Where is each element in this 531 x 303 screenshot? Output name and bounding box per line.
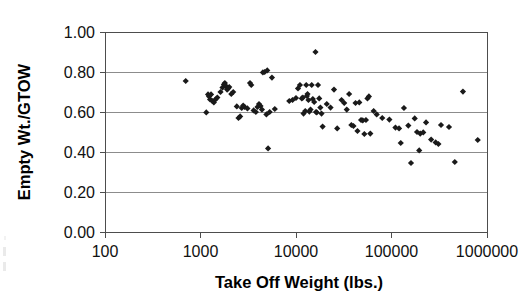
scatter-chart: 0.000.200.400.600.801.00 100100010000100… [0, 0, 531, 303]
data-point [452, 159, 458, 165]
x-axis-title: Take Off Weight (lbs.) [215, 273, 383, 291]
data-point [203, 109, 209, 115]
data-point [412, 115, 418, 121]
data-point [272, 106, 278, 112]
data-point [386, 117, 392, 123]
data-point [312, 49, 318, 55]
y-tick-label: 0.40 [64, 144, 95, 161]
y-axis-tick-labels: 0.000.200.400.600.801.00 [64, 24, 95, 241]
data-point [401, 105, 407, 111]
data-point [356, 99, 362, 105]
data-point [460, 89, 466, 95]
data-point [269, 75, 275, 81]
x-axis-ticks [105, 232, 487, 238]
data-point [405, 123, 411, 129]
data-point [309, 82, 315, 88]
data-point [354, 128, 360, 134]
data-point [367, 131, 373, 137]
data-point [234, 103, 240, 109]
data-point [183, 78, 189, 84]
x-tick-label: 1000000 [456, 243, 518, 260]
y-tick-label: 0.80 [64, 64, 95, 81]
data-point [416, 147, 422, 153]
data-point [320, 124, 326, 130]
data-point [318, 111, 324, 117]
data-point [331, 87, 337, 93]
data-point [334, 125, 340, 131]
data-point [423, 119, 429, 125]
x-axis-tick-labels: 1001000100001000001000000 [92, 243, 519, 260]
data-points [183, 49, 481, 166]
x-tick-label: 1000 [183, 243, 219, 260]
data-point [315, 82, 321, 88]
data-point [265, 145, 271, 151]
data-point [314, 109, 320, 115]
data-point [303, 82, 309, 88]
chart-canvas: 0.000.200.400.600.801.00 100100010000100… [0, 0, 531, 303]
data-point [379, 115, 385, 121]
y-axis-ticks [100, 32, 105, 232]
gridlines [105, 32, 487, 232]
plot-frame [105, 32, 487, 232]
x-tick-label: 100 [92, 243, 119, 260]
y-tick-label: 1.00 [64, 24, 95, 41]
data-point [475, 137, 481, 143]
data-point [398, 140, 404, 146]
data-point [317, 105, 323, 111]
data-point [408, 160, 414, 166]
x-tick-label: 100000 [365, 243, 418, 260]
data-point [361, 131, 367, 137]
y-axis-title: Empty Wt./GTOW [15, 63, 33, 200]
data-point [446, 124, 452, 130]
data-point [346, 91, 352, 97]
y-tick-label: 0.20 [64, 184, 95, 201]
y-tick-label: 0.00 [64, 224, 95, 241]
y-tick-label: 0.60 [64, 104, 95, 121]
data-point [438, 122, 444, 128]
data-point [316, 95, 322, 101]
x-tick-label: 10000 [274, 243, 319, 260]
